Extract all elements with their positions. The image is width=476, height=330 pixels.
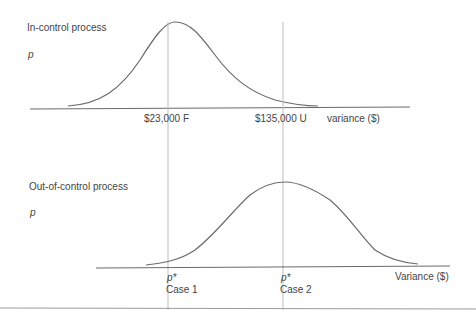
bottom-x-axis-label: Variance ($) [395,271,449,282]
case2-label: Case 2 [280,284,312,295]
top-y-label: p [28,49,34,60]
marker-label-23000: $23,000 F [144,113,189,124]
top-x-axis [30,107,410,109]
bottom-panel-title: Out-of-control process [29,181,128,192]
top-panel-title: In-control process [27,22,106,33]
marker-label-135000: $135,000 U [255,113,307,124]
bottom-x-axis [96,266,450,268]
out-of-control-distribution-curve [146,182,418,265]
case1-label: Case 1 [166,284,198,295]
bottom-y-label: p [30,207,36,218]
case1-symbol: p* [167,272,176,283]
in-control-distribution-curve [68,22,318,106]
bottom-rule [0,308,476,309]
top-x-axis-label: variance ($) [327,113,380,124]
case2-symbol: p* [281,272,290,283]
